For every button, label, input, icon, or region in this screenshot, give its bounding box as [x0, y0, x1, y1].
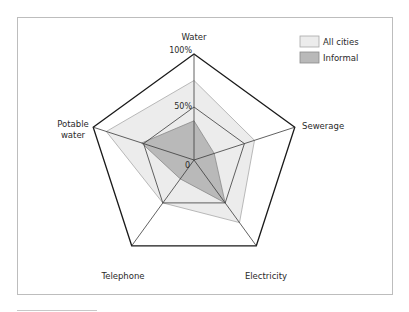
radar-chart: Water Sewerage Electricity Telephone Pot… [0, 0, 409, 312]
legend-swatch-all-cities [300, 36, 319, 47]
axis-label-potable-water: Potable [57, 119, 89, 129]
legend-label-all-cities: All cities [323, 37, 359, 47]
tick-label-100: 100% [169, 46, 192, 55]
tick-label-50: 50% [174, 102, 192, 111]
axis-label-water: Water [181, 32, 207, 42]
legend: All cities Informal [300, 36, 359, 63]
axis-label-potable-water-2: water [61, 130, 86, 140]
axis-label-sewerage: Sewerage [302, 121, 344, 131]
axis-label-telephone: Telephone [100, 271, 144, 281]
tick-label-0: 0 [185, 161, 190, 170]
axis-label-electricity: Electricity [245, 271, 287, 281]
legend-label-informal: Informal [323, 53, 358, 63]
legend-swatch-informal [300, 52, 319, 63]
